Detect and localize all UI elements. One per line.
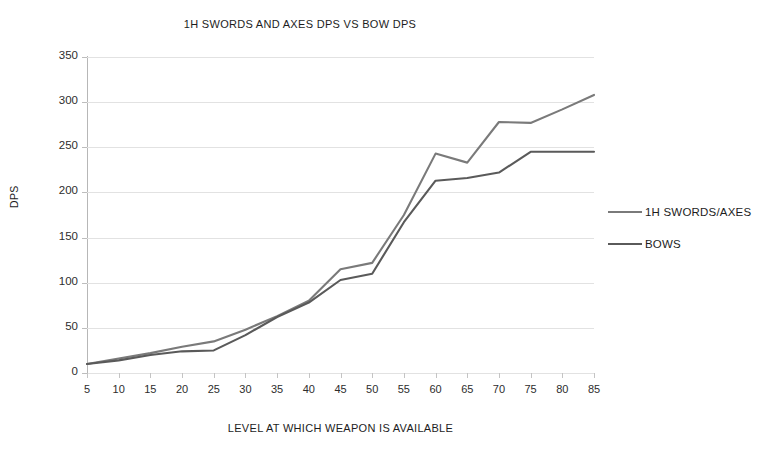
x-axis-tick-label: 5: [72, 383, 102, 395]
y-axis-tick-label: 300: [36, 94, 78, 106]
x-axis-tick-label: 40: [294, 383, 324, 395]
x-axis-tick-label: 20: [167, 383, 197, 395]
y-axis-tick-label: 200: [36, 184, 78, 196]
series-line: [87, 152, 594, 364]
x-axis-tick-label: 50: [357, 383, 387, 395]
legend-line-swatch: [608, 211, 642, 213]
legend-item[interactable]: 1H SWORDS/AXES: [608, 196, 773, 228]
x-axis-tick: [467, 373, 468, 378]
x-axis-tick-label: 35: [262, 383, 292, 395]
y-axis-tick-label: 150: [36, 230, 78, 242]
x-axis-tick-label: 55: [389, 383, 419, 395]
legend-label: 1H SWORDS/AXES: [645, 206, 751, 218]
x-axis-tick-label: 70: [484, 383, 514, 395]
y-axis-tick-label: 100: [36, 275, 78, 287]
x-axis-tick-label: 45: [326, 383, 356, 395]
x-axis-tick-label: 25: [199, 383, 229, 395]
series-line: [87, 95, 594, 364]
y-axis-tick-label: 50: [36, 320, 78, 332]
y-axis-tick-label: 350: [36, 49, 78, 61]
x-axis-tick: [404, 373, 405, 378]
x-axis-tick: [436, 373, 437, 378]
legend-item[interactable]: BOWS: [608, 228, 773, 260]
x-axis-tick-label: 10: [104, 383, 134, 395]
y-axis-tick-label: 0: [36, 365, 78, 377]
legend-label: BOWS: [645, 238, 681, 250]
chart-legend: 1H SWORDS/AXESBOWS: [608, 196, 773, 260]
x-axis-tick: [372, 373, 373, 378]
x-axis-tick: [594, 373, 595, 378]
x-axis-tick: [499, 373, 500, 378]
chart-canvas: 1H SWORDS AND AXES DPS VS BOW DPS 050100…: [0, 0, 779, 455]
x-axis-tick-label: 65: [452, 383, 482, 395]
x-axis-tick: [277, 373, 278, 378]
y-axis-tick-label: 250: [36, 139, 78, 151]
x-axis-tick: [182, 373, 183, 378]
x-axis-title: LEVEL AT WHICH WEAPON IS AVAILABLE: [87, 422, 594, 434]
x-axis-tick: [150, 373, 151, 378]
x-axis-tick: [245, 373, 246, 378]
chart-title: 1H SWORDS AND AXES DPS VS BOW DPS: [0, 18, 600, 30]
x-axis-tick: [562, 373, 563, 378]
series-lines-group: [87, 57, 594, 373]
x-axis-tick-label: 85: [579, 383, 609, 395]
x-axis-tick: [531, 373, 532, 378]
x-axis-tick: [309, 373, 310, 378]
y-axis-title: DPS: [8, 186, 20, 209]
x-axis-tick: [214, 373, 215, 378]
x-axis-tick-label: 60: [421, 383, 451, 395]
x-axis-tick: [119, 373, 120, 378]
legend-line-swatch: [608, 243, 642, 245]
x-axis-tick-label: 80: [547, 383, 577, 395]
x-axis-tick: [341, 373, 342, 378]
x-axis-tick-label: 75: [516, 383, 546, 395]
x-axis-tick-label: 15: [135, 383, 165, 395]
x-axis-tick: [87, 373, 88, 378]
x-axis-tick-label: 30: [230, 383, 260, 395]
